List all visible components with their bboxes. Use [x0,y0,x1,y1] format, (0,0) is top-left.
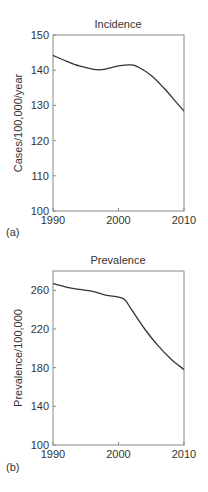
x-tick-label: 2010 [172,448,196,460]
prevalence-chart: Prevalence Prevalence/100,000 1001401802… [6,254,196,473]
y-tick-label: 120 [31,135,49,147]
panel-label: (a) [6,226,19,238]
x-tick-label: 2000 [106,448,130,460]
chart-title: Incidence [94,18,141,30]
x-tick-label: 1990 [41,448,65,460]
x-tick-label: 2000 [106,214,130,226]
y-axis-label: Prevalence/100,000 [12,309,24,407]
y-tick-label: 180 [31,362,49,374]
x-tick-label: 1990 [41,214,65,226]
y-tick-label: 110 [31,170,49,182]
chart-title: Prevalence [90,254,145,266]
y-axis-label: Cases/100,000/year [12,73,24,172]
plot-frame [53,35,184,211]
chart-figure: Incidence Cases/100,000/year 10011012013… [0,0,208,492]
y-tick-label: 130 [31,99,49,111]
y-tick-label: 150 [31,29,49,41]
incidence-line [53,55,184,111]
panel-label: (b) [6,461,19,473]
y-axis-ticks: 100110120130140150 [31,29,56,217]
incidence-chart: Incidence Cases/100,000/year 10011012013… [6,18,196,238]
y-tick-label: 260 [31,284,49,296]
y-axis-ticks: 100140180220260 [31,284,56,451]
y-tick-label: 140 [31,400,49,412]
y-tick-label: 140 [31,64,49,76]
prevalence-line [53,284,184,370]
x-tick-label: 2010 [172,214,196,226]
y-tick-label: 220 [31,323,49,335]
